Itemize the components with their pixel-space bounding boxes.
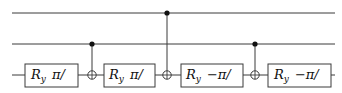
control-dot-icon — [252, 41, 257, 46]
cnot-gate-3 — [251, 41, 259, 79]
control-dot-icon — [164, 10, 169, 15]
ry-gate-3-label: Ry−π/ — [186, 68, 231, 81]
ry-gate-2-label: Ryπ/ — [109, 68, 143, 81]
cnot-gate-1 — [88, 41, 96, 79]
cnot-gate-2 — [163, 10, 171, 79]
control-dot-icon — [89, 41, 94, 46]
ry-gate-1-label: Ryπ/ — [31, 68, 65, 81]
ry-gate-4-label: Ry−π/ — [274, 68, 319, 81]
